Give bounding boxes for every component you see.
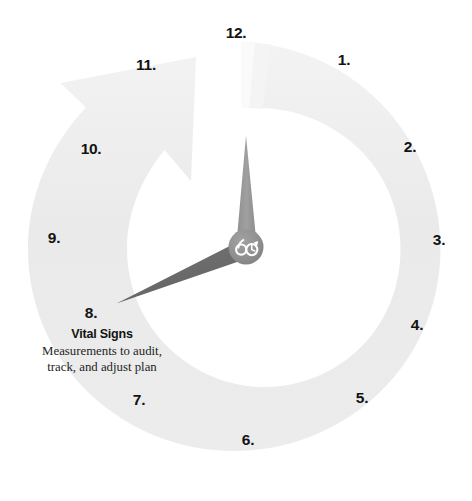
hour-label-2: 2. — [404, 139, 416, 155]
clock-minute-hand-icon — [237, 136, 257, 244]
step-caption-title: Vital Signs — [14, 327, 190, 341]
step-caption-description-line-1: Measurements to audit, — [14, 343, 190, 359]
hour-label-3: 3. — [433, 232, 445, 248]
clock-diagram: 12. 1. 2. 3. 4. 5. 6. 7. 8. 9. 10. 11. V… — [0, 0, 472, 501]
hour-label-9: 9. — [48, 230, 60, 246]
sixty-clock-logo-icon — [229, 230, 264, 265]
step-caption-description-line-2: track, and adjust plan — [14, 359, 190, 375]
hour-label-11: 11. — [136, 57, 156, 73]
step-caption: Vital Signs Measurements to audit, track… — [14, 327, 190, 376]
hour-label-6: 6. — [242, 432, 254, 448]
hour-label-10: 10. — [81, 141, 102, 157]
hour-label-7: 7. — [133, 392, 145, 408]
hour-label-1: 1. — [338, 52, 350, 68]
step-caption-description: Measurements to audit, track, and adjust… — [14, 343, 190, 376]
hour-label-5: 5. — [356, 390, 368, 406]
hour-label-8: 8. — [85, 305, 97, 321]
clock-face-graphic — [0, 0, 472, 501]
hour-label-4: 4. — [411, 317, 423, 333]
hour-label-12: 12. — [226, 25, 247, 41]
